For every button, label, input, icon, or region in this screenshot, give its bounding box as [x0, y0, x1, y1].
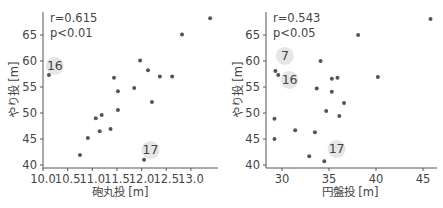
data-point	[272, 137, 276, 141]
y-tick-label: 45	[22, 132, 37, 146]
data-point	[94, 116, 98, 120]
x-tick-label: 40	[369, 172, 384, 186]
data-point	[116, 108, 120, 112]
data-point	[376, 75, 380, 79]
y-tick-label: 65	[22, 28, 37, 42]
x-tick-label: 10.5	[55, 172, 81, 186]
data-point	[330, 90, 334, 94]
data-point	[208, 16, 212, 20]
point-annotation: 17	[143, 142, 159, 157]
x-axis-label: 円盤投 [m]	[322, 185, 379, 199]
data-point	[307, 154, 311, 158]
data-point	[109, 127, 113, 131]
data-point	[100, 113, 104, 117]
x-tick-label: 45	[416, 172, 431, 186]
data-point	[47, 73, 51, 77]
data-point	[342, 101, 346, 105]
data-point	[142, 158, 146, 162]
data-point	[272, 117, 276, 121]
y-tick-label: 40	[245, 158, 260, 172]
x-tick-label: 35	[322, 172, 337, 186]
y-tick-label: 40	[22, 158, 37, 172]
y-tick-label: 45	[245, 132, 260, 146]
data-point	[180, 32, 184, 36]
correlation-r: r=0.615	[50, 11, 97, 25]
y-tick-label: 55	[22, 80, 37, 94]
y-axis-label: やり投 [m]	[7, 62, 21, 119]
data-point	[429, 17, 433, 21]
x-tick-label: 12.0	[129, 172, 155, 186]
x-tick-label: 11.0	[79, 172, 105, 186]
scatter-chart-2: 40455055606530354045円盤投 [m]やり投 [m]r=0.54…	[231, 11, 437, 199]
data-point	[116, 89, 120, 93]
data-point	[324, 109, 328, 113]
data-point	[337, 114, 341, 118]
point-annotation: 16	[282, 72, 298, 87]
data-point	[150, 100, 154, 104]
data-point	[138, 58, 142, 62]
data-point	[78, 153, 82, 157]
y-tick-label: 50	[22, 106, 37, 120]
y-tick-label: 50	[245, 106, 260, 120]
data-point	[313, 130, 317, 134]
data-point	[293, 128, 297, 132]
scatter-figure: 40455055606510.010.511.011.512.012.513.0…	[0, 0, 443, 208]
data-point	[335, 76, 339, 80]
y-tick-label: 60	[245, 54, 260, 68]
y-axis-label: やり投 [m]	[231, 62, 245, 119]
p-value: p<0.01	[50, 26, 93, 40]
data-point	[86, 136, 90, 140]
x-tick-label: 12.5	[153, 172, 179, 186]
y-tick-label: 60	[22, 54, 37, 68]
data-point	[322, 159, 326, 163]
data-point	[132, 86, 136, 90]
data-point	[315, 87, 319, 91]
x-tick-label: 13.0	[178, 172, 204, 186]
data-point	[112, 76, 116, 80]
point-annotation: 16	[47, 58, 63, 73]
data-point	[276, 73, 280, 77]
data-point	[146, 68, 150, 72]
data-point	[330, 77, 334, 81]
data-point	[273, 69, 277, 73]
y-tick-label: 55	[245, 80, 260, 94]
scatter-chart-1: 40455055606510.010.511.011.512.012.513.0…	[7, 11, 218, 199]
point-annotation: 17	[329, 141, 345, 156]
point-annotation: 7	[281, 48, 289, 63]
x-tick-label: 10.0	[30, 172, 56, 186]
x-tick-label: 11.5	[104, 172, 130, 186]
x-tick-label: 30	[275, 172, 290, 186]
data-point	[98, 129, 102, 133]
y-tick-label: 65	[245, 28, 260, 42]
x-axis-label: 砲丸投 [m]	[92, 185, 149, 199]
data-point	[319, 59, 323, 63]
figure-canvas: 40455055606510.010.511.011.512.012.513.0…	[0, 0, 443, 208]
p-value: p<0.05	[273, 26, 316, 40]
correlation-r: r=0.543	[273, 11, 320, 25]
data-point	[158, 75, 162, 79]
data-point	[170, 75, 174, 79]
data-point	[356, 33, 360, 37]
